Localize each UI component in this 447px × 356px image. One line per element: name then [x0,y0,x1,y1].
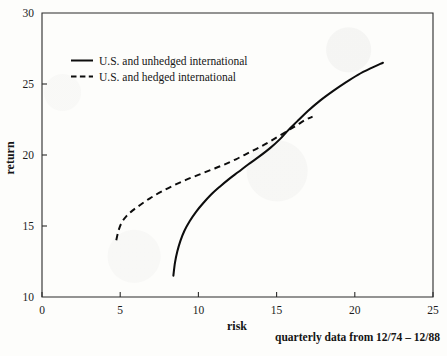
y-tick-label-25: 25 [23,78,35,90]
x-tick-label-25: 25 [427,304,439,316]
y-axis-ticks [42,84,47,226]
x-axis-tick-labels: 0510152025 [39,304,439,316]
x-tick-label-10: 10 [193,304,205,316]
figure-page: 0510152025 1015202530 risk return U.S. a… [0,0,447,356]
y-axis-tick-labels: 1015202530 [23,7,35,303]
y-tick-label-30: 30 [23,7,35,19]
series-line-unhedged [173,63,383,276]
series-layer [116,63,383,276]
figure-caption: quarterly data from 12/74 – 12/88 [275,331,440,344]
y-axis-title: return [3,141,17,174]
y-tick-label-15: 15 [23,220,35,232]
legend-label-hedged: U.S. and hedged international [99,71,236,84]
legend-label-unhedged: U.S. and unhedged international [99,55,248,68]
x-tick-label-20: 20 [349,304,361,316]
x-axis-ticks [42,292,433,297]
x-tick-label-5: 5 [117,304,123,316]
x-axis-title: risk [227,319,247,333]
x-tick-label-0: 0 [39,304,45,316]
x-tick-label-15: 15 [271,304,283,316]
risk-return-chart: 0510152025 1015202530 risk return U.S. a… [0,0,447,356]
y-tick-label-20: 20 [23,149,35,161]
chart-legend: U.S. and unhedged international U.S. and… [71,55,248,84]
y-tick-label-10: 10 [23,291,35,303]
